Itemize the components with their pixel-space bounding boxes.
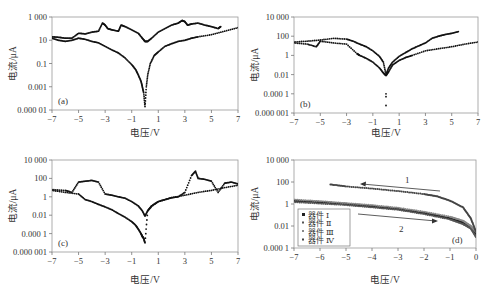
panel-a: 1 000100.10.0010.000 01−7−5−3−11357电压/V电…	[7, 12, 240, 138]
x-tick-label: −3	[101, 256, 110, 266]
x-tick-label: −5	[316, 117, 325, 127]
x-tick-label: −6	[315, 252, 324, 262]
x-tick-label: −7	[289, 117, 298, 127]
x-tick-label: −1	[368, 117, 377, 127]
legend-entry: 器件 Ⅳ	[308, 235, 335, 245]
panel-label: (a)	[58, 96, 68, 106]
legend-entry: 器件 Ⅰ	[308, 210, 329, 220]
x-tick-label: −5	[341, 252, 350, 262]
annotation-1: 1	[405, 175, 410, 185]
y-tick-label: 100	[276, 177, 289, 187]
x-tick-label: −3	[393, 252, 402, 262]
x-tick-label: −7	[47, 114, 56, 124]
x-tick-label: −1	[445, 252, 454, 262]
x-tick-label: −1	[127, 114, 136, 124]
data-series	[51, 20, 239, 108]
y-tick-label: 0.000 01	[17, 105, 47, 115]
x-tick-label: −3	[342, 117, 351, 127]
x-tick-label: 1	[397, 117, 401, 127]
x-tick-label: −2	[419, 252, 428, 262]
panel-label: (d)	[452, 235, 463, 245]
plot-frame	[294, 17, 478, 113]
y-axis-label: 电流/μA	[249, 48, 260, 83]
panel-c: 10 00010010.010.000 10.000 001−7−5−3−113…	[7, 155, 240, 285]
y-tick-label: 0.01	[32, 210, 47, 220]
y-tick-label: 1 000	[28, 12, 47, 22]
x-tick-label: 1	[156, 256, 160, 266]
data-series	[293, 31, 479, 107]
y-tick-label: 1	[43, 192, 47, 202]
x-tick-label: 3	[423, 117, 427, 127]
panel-d: 10 00010010.010.000 1−7−6−5−4−3−2−10电压/V…	[249, 155, 478, 285]
y-tick-label: 10	[39, 35, 48, 45]
x-tick-label: 5	[450, 117, 454, 127]
annotation-2: 2	[399, 224, 404, 234]
y-axis-label: 电流/μA	[7, 46, 18, 81]
x-tick-label: 7	[236, 114, 240, 124]
plot-frame	[52, 17, 238, 110]
x-tick-label: 7	[236, 256, 240, 266]
x-tick-label: 3	[183, 256, 187, 266]
legend-entry: 器件 Ⅲ	[308, 227, 334, 237]
x-axis-label: 电压/V	[370, 274, 400, 285]
x-tick-label: −7	[47, 256, 56, 266]
panel-label: (b)	[300, 99, 311, 109]
x-axis-label: 电压/V	[130, 127, 160, 138]
y-tick-label: 10 000	[266, 155, 289, 165]
x-tick-label: −7	[289, 252, 298, 262]
x-tick-label: −5	[74, 114, 83, 124]
y-tick-label: 100	[276, 31, 289, 41]
y-tick-label: 1	[285, 50, 289, 60]
y-axis-label: 电流/μA	[7, 189, 18, 224]
x-tick-label: 5	[209, 256, 213, 266]
y-tick-label: 1	[285, 199, 289, 209]
panel-label: (c)	[58, 238, 68, 248]
y-tick-label: 10 000	[266, 12, 289, 22]
y-tick-label: 10 000	[24, 155, 47, 165]
x-tick-label: −4	[367, 252, 377, 262]
x-tick-label: −5	[74, 256, 83, 266]
y-tick-label: 0.000 001	[13, 247, 47, 257]
x-axis-label: 电压/V	[371, 127, 401, 138]
x-axis-label: 电压/V	[130, 274, 160, 285]
data-series	[51, 170, 239, 243]
x-tick-label: 7	[476, 117, 480, 127]
panel-b: 10 00010010.010.000 10.000 001−7−5−3−113…	[249, 12, 480, 138]
y-tick-label: 0.001	[28, 82, 47, 92]
y-tick-label: 0.01	[274, 70, 289, 80]
y-tick-label: 0.1	[36, 59, 47, 69]
x-tick-label: 0	[474, 252, 478, 262]
y-tick-label: 0.000 1	[264, 243, 290, 253]
x-tick-label: 5	[209, 114, 213, 124]
legend: 器件 Ⅰ器件 Ⅱ器件 Ⅲ器件 Ⅳ	[298, 209, 350, 246]
x-tick-label: 1	[156, 114, 160, 124]
y-axis-label: 电流/μA	[249, 187, 260, 222]
y-tick-label: 0.000 1	[264, 89, 290, 99]
y-tick-label: 100	[34, 173, 47, 183]
figure: 1 000100.10.0010.000 01−7−5−3−11357电压/V电…	[0, 0, 488, 293]
x-tick-label: −3	[101, 114, 110, 124]
y-tick-label: 0.000 1	[22, 229, 48, 239]
y-tick-label: 0.01	[274, 221, 289, 231]
x-tick-label: −1	[127, 256, 136, 266]
x-tick-label: 3	[183, 114, 187, 124]
legend-entry: 器件 Ⅱ	[308, 218, 331, 228]
y-tick-label: 0.000 001	[255, 108, 289, 118]
arrow-1	[362, 184, 440, 191]
